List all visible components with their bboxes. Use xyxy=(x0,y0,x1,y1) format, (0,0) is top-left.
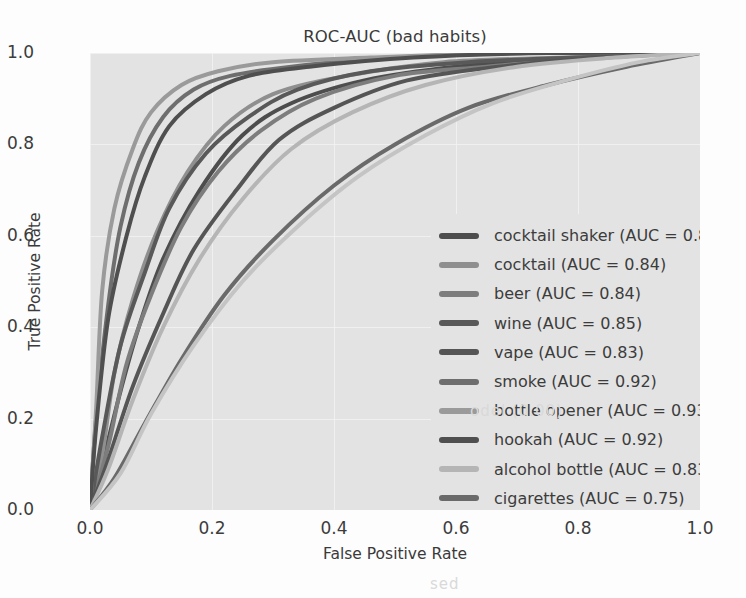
x-tick-label: 0.6 xyxy=(421,518,491,538)
legend-swatch xyxy=(439,233,479,239)
legend-swatch xyxy=(439,349,479,355)
x-tick-label: 0.2 xyxy=(177,518,247,538)
x-tick-label: 0.0 xyxy=(55,518,125,538)
y-tick-label: 0.4 xyxy=(0,316,34,336)
y-tick-label: 0.8 xyxy=(0,133,34,153)
x-tick-label: 0.4 xyxy=(299,518,369,538)
legend-swatch xyxy=(439,495,479,501)
legend-item[interactable]: hookah (AUC = 0.92) xyxy=(439,425,700,454)
legend-swatch xyxy=(439,262,479,268)
y-tick-label: 1.0 xyxy=(0,42,34,62)
legend-item[interactable]: wine (AUC = 0.85) xyxy=(439,309,700,338)
legend-swatch xyxy=(439,408,479,414)
legend-item[interactable]: cocktail (AUC = 0.84) xyxy=(439,250,700,279)
roc-auc-figure: ROC-AUC (bad habits) True Positive Rate … xyxy=(0,0,746,598)
legend-label: bottle opener (AUC = 0.93) xyxy=(494,401,700,420)
plot-area: cocktail shaker (AUC = 0.82)cocktail (AU… xyxy=(90,53,700,510)
legend-item[interactable]: vape (AUC = 0.83) xyxy=(439,338,700,367)
legend-label: vape (AUC = 0.83) xyxy=(494,343,644,362)
legend-item[interactable]: beer (AUC = 0.84) xyxy=(439,279,700,308)
legend-swatch xyxy=(439,437,479,443)
x-axis-label: False Positive Rate xyxy=(90,545,700,563)
x-tick-label: 1.0 xyxy=(665,518,735,538)
legend-label: hookah (AUC = 0.92) xyxy=(494,430,663,449)
legend-item[interactable]: cigarettes (AUC = 0.75) xyxy=(439,484,700,510)
legend-label: beer (AUC = 0.84) xyxy=(494,284,641,303)
legend-swatch xyxy=(439,466,479,472)
legend-label: cigarettes (AUC = 0.75) xyxy=(494,489,685,508)
legend-item[interactable]: cocktail shaker (AUC = 0.82) xyxy=(439,221,700,250)
page-title: ROC-AUC (bad habits) xyxy=(90,27,700,46)
y-tick-label: 0.6 xyxy=(0,225,34,245)
y-tick-label: 0.2 xyxy=(0,408,34,428)
y-axis-label: True Positive Rate xyxy=(26,53,44,510)
y-tick-label: 0.0 xyxy=(0,499,34,519)
legend-swatch xyxy=(439,320,479,326)
legend-label: smoke (AUC = 0.92) xyxy=(494,372,657,391)
legend-label: cocktail (AUC = 0.84) xyxy=(494,255,666,274)
legend-label: wine (AUC = 0.85) xyxy=(494,314,642,333)
legend-swatch xyxy=(439,379,479,385)
legend-item[interactable]: bottle opener (AUC = 0.93) xyxy=(439,396,700,425)
legend-item[interactable]: smoke (AUC = 0.92) xyxy=(439,367,700,396)
x-tick-label: 0.8 xyxy=(543,518,613,538)
legend-label: alcohol bottle (AUC = 0.83) xyxy=(494,460,700,479)
legend-swatch xyxy=(439,291,479,297)
legend-label: cocktail shaker (AUC = 0.82) xyxy=(494,226,700,245)
legend: cocktail shaker (AUC = 0.82)cocktail (AU… xyxy=(431,214,700,510)
scan-artifact: sed xyxy=(430,575,460,593)
legend-item[interactable]: alcohol bottle (AUC = 0.83) xyxy=(439,455,700,484)
